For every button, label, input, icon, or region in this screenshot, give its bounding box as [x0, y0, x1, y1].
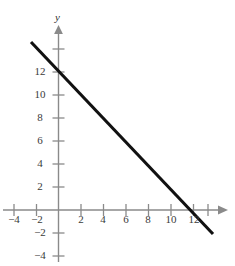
y-tick-label: 8 [33, 112, 47, 123]
x-tick-label: 4 [96, 214, 110, 225]
graph-figure: . . . [0, 0, 235, 266]
y-tick-label: 6 [33, 135, 47, 146]
y-tick-label: −2 [31, 227, 49, 238]
y-tick-label: 4 [33, 158, 47, 169]
y-axis [54, 25, 63, 262]
x-tick-label: −2 [27, 214, 47, 225]
x-tick-label: 10 [162, 214, 180, 225]
y-tick-label: −4 [31, 250, 49, 261]
x-tick-label: 2 [74, 214, 88, 225]
x-tick-label: 8 [141, 214, 155, 225]
y-tick-label: 12 [31, 66, 49, 77]
x-tick-label: 6 [119, 214, 133, 225]
x-tick-label: −4 [4, 214, 24, 225]
x-tick-label: 12 [185, 214, 203, 225]
y-axis-label: y [55, 12, 60, 23]
y-tick-label: 10 [31, 89, 49, 100]
y-tick-label: 2 [33, 181, 47, 192]
